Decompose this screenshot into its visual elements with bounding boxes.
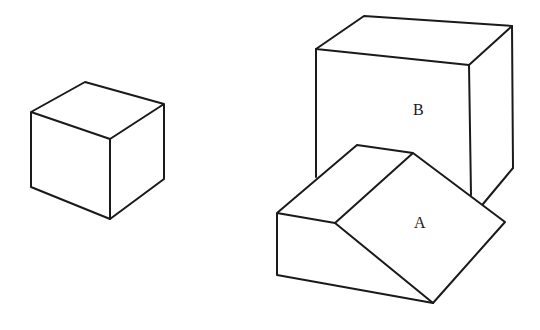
label-b: B xyxy=(413,101,424,118)
label-a: A xyxy=(414,214,426,231)
figure-canvas: B A xyxy=(0,0,540,330)
small-cube xyxy=(31,82,164,219)
